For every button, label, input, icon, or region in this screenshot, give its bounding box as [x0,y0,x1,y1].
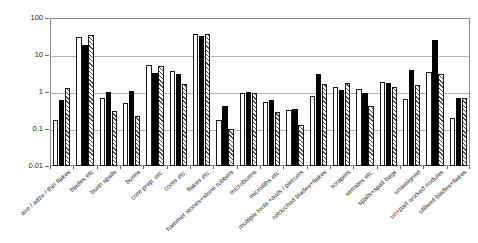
bar [380,82,385,166]
y-tick-label-10: 10 [35,51,43,59]
bar-group [53,18,70,166]
bar [263,102,268,166]
x-category-label: axe / adze / thin flakes [19,168,72,217]
bar [193,34,198,166]
bar [158,66,163,166]
bar [403,99,408,166]
bar [240,93,245,166]
bar [152,73,157,166]
y-tick-label-100: 100 [30,14,43,22]
bar [339,90,344,166]
y-tick-mark [45,166,49,167]
bar-group [263,18,280,166]
bar-group [193,18,210,166]
bar-group [450,18,467,166]
bar [106,92,111,166]
bar-group [240,18,257,166]
bar-group [100,18,117,166]
bar [356,89,361,166]
bar [65,88,70,166]
bar [462,98,467,166]
bar [392,87,397,166]
bar [316,74,321,166]
bar [368,106,373,166]
x-category-label: cores etc. [162,168,188,192]
bar [456,98,461,166]
bar [182,84,187,166]
y-tick-mark [45,92,49,93]
bar [146,65,151,166]
bar [415,85,420,166]
bar [246,92,251,166]
bar-group [356,18,373,166]
bar [252,93,257,166]
x-axis-category-labels: axe / adze / thin flakesblades etcburin … [0,168,478,243]
bar [409,70,414,166]
bar-group [426,18,443,166]
bar-group [310,18,327,166]
x-category-label: burins [123,168,141,185]
bar [76,37,81,166]
bar [59,100,64,166]
y-tick-label-0.1: 0.1 [33,125,43,133]
bar [176,74,181,166]
bar [450,118,455,166]
bar [333,87,338,166]
bar-group [76,18,93,166]
bar [216,120,221,166]
bar [292,109,297,166]
bar [123,103,128,166]
bars-layer [50,18,470,166]
y-tick-label-1: 1 [39,88,43,96]
bar [129,91,134,166]
bar [100,98,105,166]
bar [362,93,367,166]
bar [170,71,175,166]
bar [53,120,58,166]
bar [345,83,350,166]
bar [135,116,140,166]
bar-group [403,18,420,166]
y-axis: 1001010.10.01 [0,0,50,180]
y-tick-mark [45,18,49,19]
bar-group [146,18,163,166]
bar-group [333,18,350,166]
bar [269,100,274,166]
bar [322,84,327,166]
bar-group [170,18,187,166]
bar-group [123,18,140,166]
bar [112,111,117,166]
bar-group [216,18,233,166]
bar [82,45,87,166]
bar [222,106,227,166]
bar [275,112,280,166]
bar-group [286,18,303,166]
log-bar-chart: 1001010.10.01 axe / adze / thin flakesbl… [0,0,478,243]
bar [310,96,315,166]
bar [199,36,204,166]
bar [426,72,431,166]
y-tick-mark [45,55,49,56]
bar-group [380,18,397,166]
bar [286,110,291,166]
y-tick-mark [45,129,49,130]
bar [298,125,303,166]
bar [205,34,210,166]
bar [386,83,391,166]
bar [438,74,443,166]
bar [432,40,437,166]
bar [88,35,93,166]
bar [228,129,233,166]
